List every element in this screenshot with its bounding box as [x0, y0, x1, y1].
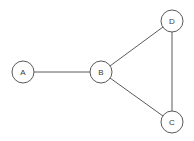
- node-label-a: A: [20, 68, 26, 77]
- graph-edge-b-c: [110, 78, 163, 116]
- graph-node-c[interactable]: C: [161, 111, 183, 133]
- graph-node-a[interactable]: A: [12, 61, 34, 83]
- graph-svg: ABCD: [0, 0, 194, 141]
- graph-edge-b-d: [110, 27, 163, 66]
- diagram-canvas: ABCD: [0, 0, 194, 141]
- graph-node-b[interactable]: B: [90, 61, 112, 83]
- node-label-c: C: [169, 118, 175, 127]
- node-label-b: B: [98, 68, 103, 77]
- node-label-d: D: [169, 17, 175, 26]
- graph-node-d[interactable]: D: [161, 10, 183, 32]
